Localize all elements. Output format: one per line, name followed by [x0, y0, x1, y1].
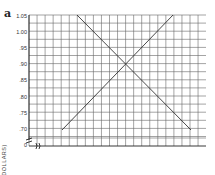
chart-plot — [0, 0, 215, 175]
series-lines — [62, 15, 191, 130]
grid — [29, 15, 206, 146]
